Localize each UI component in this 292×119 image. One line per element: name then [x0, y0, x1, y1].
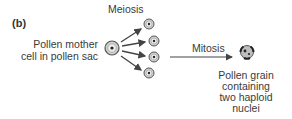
daughter-cell-icon [149, 52, 159, 62]
daughter-cell-icon [144, 19, 154, 29]
daughter-cell-icon [149, 36, 159, 46]
daughter-cell-icon [144, 68, 154, 78]
pollen-grain-icon [240, 46, 253, 59]
diagram-graphics [0, 0, 292, 119]
meiosis-arrows [121, 29, 145, 70]
pollen-mother-cell-icon [105, 41, 119, 55]
